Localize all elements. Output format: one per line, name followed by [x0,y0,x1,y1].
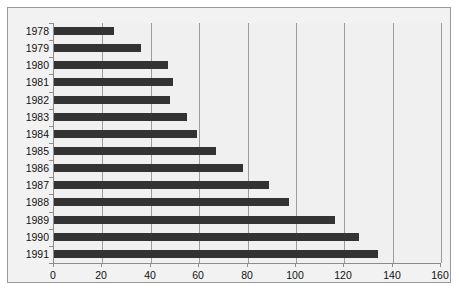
bar-row [54,229,441,246]
y-tick-mark [49,143,53,144]
bar-row [54,109,441,126]
y-tick-mark [49,92,53,93]
x-tick-mark [101,263,102,267]
y-tick-label: 1978 [9,23,49,40]
y-tick-mark [49,23,53,24]
y-tick-label: 1988 [9,194,49,211]
y-tick-mark [49,212,53,213]
x-tick-label: 0 [33,269,73,281]
x-tick-label: 80 [227,269,267,281]
y-tick-label: 1990 [9,229,49,246]
bar [54,250,378,258]
x-tick-label: 140 [372,269,412,281]
x-tick-mark [295,263,296,267]
bar-row [54,92,441,109]
y-tick-mark [49,126,53,127]
bar-row [54,160,441,177]
y-tick-mark [49,57,53,58]
bar [54,78,173,86]
bar [54,181,269,189]
y-tick-label: 1982 [9,92,49,109]
x-tick-mark [440,263,441,267]
x-tick-mark [343,263,344,267]
x-tick-mark [198,263,199,267]
bar-row [54,246,441,263]
bar [54,27,114,35]
x-tick-label: 60 [178,269,218,281]
bar-row [54,40,441,57]
y-tick-mark [49,160,53,161]
y-tick-label: 1989 [9,212,49,229]
bar [54,44,141,52]
y-tick-label: 1986 [9,160,49,177]
plot-area [53,23,441,263]
bar-row [54,126,441,143]
bar [54,233,359,241]
y-tick-label: 1983 [9,109,49,126]
bar-row [54,212,441,229]
x-tick-label: 120 [323,269,363,281]
x-tick-mark [247,263,248,267]
y-axis: 1978197919801981198219831984198519861987… [8,23,49,263]
y-tick-label: 1981 [9,74,49,91]
bar [54,164,243,172]
y-tick-label: 1980 [9,57,49,74]
bar [54,198,289,206]
bar [54,147,216,155]
bar [54,130,197,138]
y-tick-label: 1979 [9,40,49,57]
x-tick-mark [53,263,54,267]
bar-row [54,194,441,211]
y-tick-mark [49,109,53,110]
x-tick-mark [150,263,151,267]
bar [54,61,168,69]
y-tick-mark [49,229,53,230]
bar-row [54,177,441,194]
x-tick-label: 160 [420,269,459,281]
x-tick-label: 20 [81,269,121,281]
bar-row [54,143,441,160]
y-tick-label: 1985 [9,143,49,160]
y-tick-label: 1987 [9,177,49,194]
y-tick-mark [49,74,53,75]
x-tick-mark [392,263,393,267]
bar-row [54,23,441,40]
y-tick-label: 1984 [9,126,49,143]
bar [54,216,335,224]
chart-frame: 1978197919801981198219831984198519861987… [7,7,451,283]
y-tick-mark [49,177,53,178]
bar [54,96,170,104]
bar-row [54,57,441,74]
bar [54,113,187,121]
y-tick-mark [49,263,53,264]
bar-row [54,74,441,91]
y-tick-mark [49,246,53,247]
bar-chart-figure: 1978197919801981198219831984198519861987… [0,0,459,291]
gridline [441,23,442,263]
x-tick-label: 100 [275,269,315,281]
y-tick-mark [49,40,53,41]
y-tick-mark [49,194,53,195]
y-tick-label: 1991 [9,246,49,263]
x-tick-label: 40 [130,269,170,281]
